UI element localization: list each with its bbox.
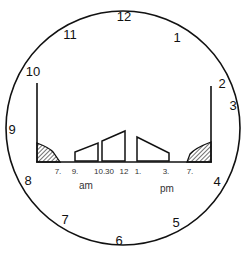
- pm-label: pm: [160, 183, 174, 194]
- activity-blocks: [75, 131, 169, 161]
- clock-number-1: 1: [173, 30, 180, 45]
- clock-number-10: 10: [26, 64, 40, 79]
- clock-number-8: 8: [24, 173, 31, 188]
- clock-number-11: 11: [63, 27, 77, 42]
- morning-block: [75, 143, 98, 161]
- clock-face-circle: [6, 11, 240, 245]
- evening-dark-region: [187, 142, 211, 162]
- tick-1pm: 1.: [135, 167, 142, 176]
- midday-block: [102, 131, 125, 161]
- tick-3pm: 3.: [163, 167, 170, 176]
- tick-1030am: 10.30: [94, 167, 115, 176]
- morning-dark-region: [37, 143, 60, 162]
- clock-number-12: 12: [117, 9, 131, 24]
- clock-number-9: 9: [8, 122, 15, 137]
- tick-12: 12: [120, 167, 129, 176]
- clock-number-6: 6: [115, 233, 122, 248]
- clock-number-3: 3: [229, 98, 236, 113]
- clock-number-2: 2: [218, 76, 225, 91]
- clock-number-7: 7: [61, 212, 68, 227]
- afternoon-block: [137, 137, 169, 161]
- tick-9am: 9.: [72, 167, 79, 176]
- clock-number-5: 5: [172, 215, 179, 230]
- am-label: am: [79, 180, 93, 191]
- tick-7pm: 7.: [187, 167, 194, 176]
- tick-7am: 7.: [55, 167, 62, 176]
- clock-diagram: 12 1 2 3 4 5 6 7 8 9 10 11 7. 9. 10.30 1…: [0, 0, 247, 256]
- clock-number-4: 4: [213, 174, 220, 189]
- time-tick-labels: 7. 9. 10.30 12 1. 3. 7.: [55, 167, 194, 176]
